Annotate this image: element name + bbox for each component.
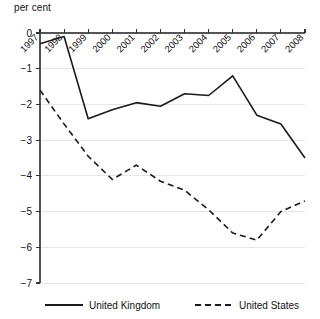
y-tick-label: −6 (21, 242, 33, 253)
x-tick-label: 2001 (114, 32, 137, 55)
legend-label-united-kingdom: United Kingdom (89, 300, 160, 311)
x-tick-label: 2002 (138, 32, 161, 55)
x-tick-label: 1999 (66, 32, 89, 55)
legend-label-united-states: United States (239, 300, 299, 311)
chart-svg: 0−1−2−3−4−5−6−7 199719981999200020012002… (0, 0, 320, 319)
x-tick-label: 1997 (18, 32, 41, 55)
gridlines (40, 33, 305, 283)
y-tick-label: −3 (21, 135, 33, 146)
series-lines (40, 37, 305, 241)
y-tick-label: −1 (21, 63, 33, 74)
y-axis: 0−1−2−3−4−5−6−7 (21, 28, 40, 289)
chart-container: per cent 0−1−2−3−4−5−6−7 199719981999200… (0, 0, 320, 319)
x-tick-label: 2007 (259, 32, 282, 55)
y-tick-label: −7 (21, 278, 33, 289)
x-tick-label: 2003 (162, 32, 185, 55)
x-tick-label: 2008 (283, 32, 306, 55)
series-line-united-states (40, 90, 305, 240)
x-tick-label: 2005 (210, 32, 233, 55)
x-tick-label: 2006 (235, 32, 258, 55)
y-tick-label: −4 (21, 170, 33, 181)
y-tick-label: −5 (21, 206, 33, 217)
x-tick-label: 2000 (90, 32, 113, 55)
y-tick-label: −2 (21, 99, 33, 110)
x-axis: 1997199819992000200120022003200420052006… (18, 29, 306, 283)
chart-legend: United KingdomUnited States (45, 300, 299, 311)
x-tick-label: 2004 (186, 32, 209, 55)
